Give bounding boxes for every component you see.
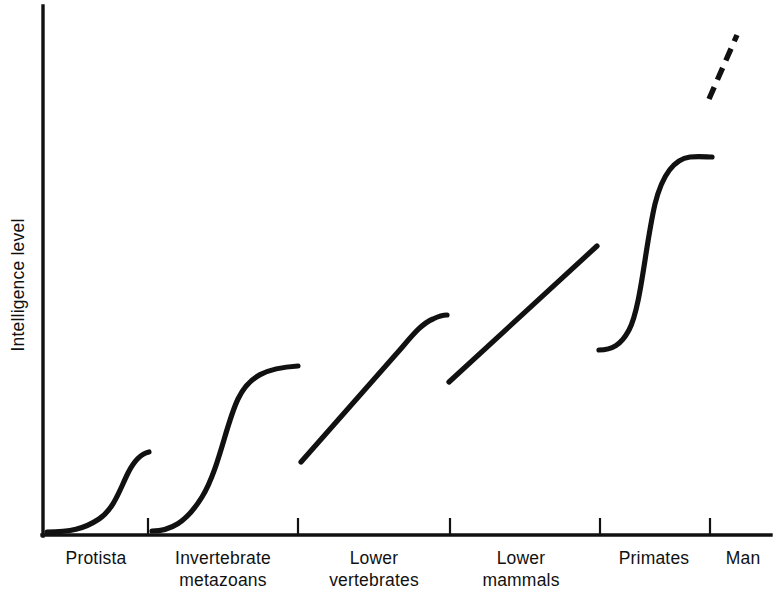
x-tick-label-lower-vertebrates-line1: Lower [350, 548, 399, 568]
y-axis-label: Intelligence level [8, 219, 28, 352]
x-tick-label-invertebrate-line1: Invertebrate [175, 548, 271, 568]
chart-background [0, 0, 777, 600]
x-tick-label-lower-mammals-line1: Lower [497, 548, 546, 568]
x-tick-label-invertebrate-line2: metazoans [179, 570, 266, 590]
x-tick-label-protista: Protista [66, 548, 127, 568]
x-tick-label-lower-vertebrates-line2: vertebrates [329, 570, 419, 590]
x-tick-label-primates: Primates [619, 548, 690, 568]
x-tick-label-man: Man [726, 548, 761, 568]
intelligence-level-chart: Intelligence level Protista Invertebrate… [0, 0, 777, 600]
x-tick-label-lower-mammals-line2: mammals [482, 570, 559, 590]
